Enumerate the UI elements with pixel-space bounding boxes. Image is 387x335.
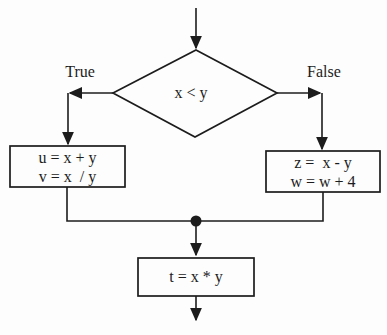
true-process-line2: v = x / y [39,168,96,186]
flowchart-canvas: x < y True False u = x + y v = x / y z =… [0,0,387,335]
false-branch-label: False [307,63,341,80]
false-process-line2: w = w + 4 [290,173,355,190]
merge-process-label: t = x * y [169,268,222,286]
false-process-line1: z = x - y [294,154,351,172]
true-branch-label: True [65,63,95,80]
flowchart-diagram: x < y True False u = x + y v = x / y z =… [0,0,387,335]
decision-label: x < y [174,84,207,102]
true-process-line1: u = x + y [38,149,96,167]
